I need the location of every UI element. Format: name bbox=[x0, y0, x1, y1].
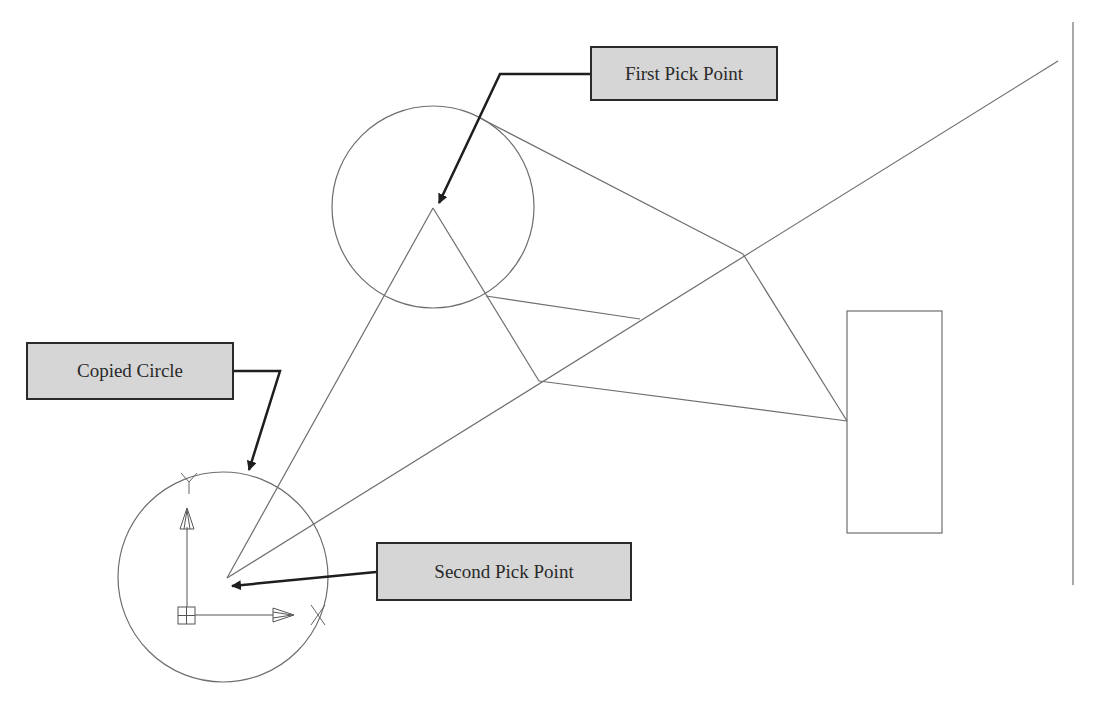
second-pick-point-leader bbox=[232, 572, 376, 586]
first-pick-point-text: First Pick Point bbox=[625, 63, 743, 85]
y-axis-mark-icon bbox=[181, 473, 197, 494]
copied-circle-label: Copied Circle bbox=[26, 342, 234, 400]
copied-circle-leader bbox=[234, 371, 280, 470]
first-pick-point-leader bbox=[439, 74, 590, 203]
geometry-line bbox=[478, 117, 743, 254]
geometry-line bbox=[539, 381, 847, 421]
geometry-line bbox=[743, 254, 847, 421]
geometry-line bbox=[227, 61, 1058, 578]
geometry-line bbox=[433, 208, 539, 381]
first-pick-point-label: First Pick Point bbox=[590, 46, 778, 101]
geometry-line bbox=[486, 296, 640, 319]
geometry-line bbox=[227, 208, 433, 578]
ucs-axis-icon bbox=[178, 508, 294, 624]
copied-circle-text: Copied Circle bbox=[77, 360, 183, 382]
rectangle-object bbox=[847, 311, 942, 533]
second-pick-point-text: Second Pick Point bbox=[434, 561, 573, 583]
second-pick-point-label: Second Pick Point bbox=[376, 542, 632, 601]
original-circle bbox=[332, 106, 534, 308]
copied-circle bbox=[118, 472, 328, 682]
